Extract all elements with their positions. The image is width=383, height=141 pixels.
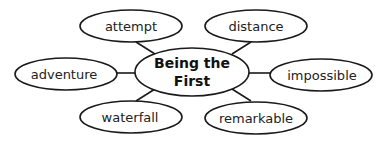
connector-distance — [232, 42, 251, 54]
node-label-waterfall: waterfall — [102, 110, 159, 125]
node-label-distance: distance — [228, 19, 283, 34]
node-label-remarkable: remarkable — [219, 111, 293, 126]
connector-waterfall — [136, 89, 155, 101]
mind-map: Being the First attempt distance adventu… — [0, 0, 383, 141]
center-title-line1: Being the — [154, 55, 230, 71]
connector-attempt — [136, 42, 155, 54]
node-label-impossible: impossible — [287, 68, 357, 83]
center-title-line2: First — [174, 73, 211, 89]
node-label-attempt: attempt — [105, 19, 157, 34]
connector-remarkable — [232, 89, 251, 101]
node-label-adventure: adventure — [31, 67, 98, 82]
